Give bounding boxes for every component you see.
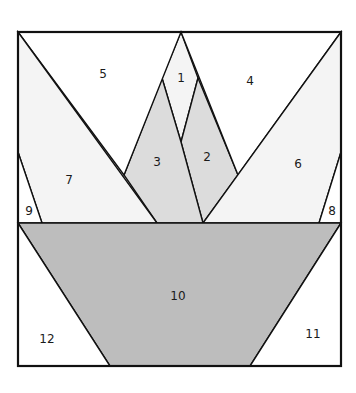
piece-label-1: 1 [177, 71, 185, 85]
piece-label-6: 6 [294, 157, 302, 171]
piece-label-7: 7 [65, 173, 73, 187]
piece-label-9: 9 [25, 204, 33, 218]
piece-label-8: 8 [328, 204, 336, 218]
piece-label-11: 11 [305, 327, 320, 341]
pattern-svg: 123456789101112 [0, 0, 356, 393]
piece-label-12: 12 [39, 332, 54, 346]
piece-label-4: 4 [246, 74, 254, 88]
piece-label-10: 10 [170, 289, 185, 303]
piece-label-2: 2 [203, 150, 211, 164]
piece-label-5: 5 [99, 67, 107, 81]
piecing-diagram: 123456789101112 [0, 0, 356, 393]
piece-label-3: 3 [153, 155, 161, 169]
